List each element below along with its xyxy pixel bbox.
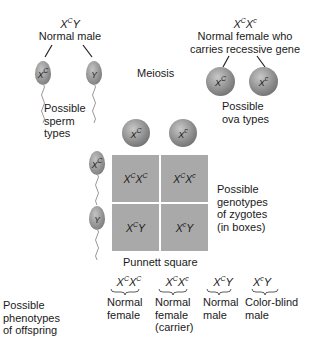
mother-label: Normal female who carries recessive gene [180, 30, 310, 55]
sperm-caption: Possible sperm types [44, 102, 86, 140]
mother-genotype: XCXc [210, 17, 280, 30]
punnett-ovum-xc: XC [122, 119, 150, 147]
sperm-tail-icon [92, 173, 102, 207]
father-label: Normal male [25, 30, 115, 43]
punnett-cell: XCY [112, 204, 159, 251]
phenotype-item: XCY Normalmale [203, 275, 243, 321]
sperm-label: XC [38, 67, 49, 80]
brace-icon [206, 288, 232, 296]
father-branch-lines [40, 44, 100, 60]
punnett-cell: XCXC [112, 155, 159, 202]
phenotype-item: XcY Color-blindmale [245, 275, 311, 321]
phenotype-item: XCXC Normalfemale [107, 275, 151, 321]
punnett-cell: XCXc [161, 155, 208, 202]
phenotype-item: XCXc Normalfemale(carrier) [155, 275, 199, 334]
sperm-tail-icon [89, 83, 99, 123]
allele-rest: Y [73, 18, 80, 30]
ova-caption: Possible ova types [222, 100, 269, 125]
zygote-caption: Possible genotypes of zygotes (in boxes) [217, 183, 268, 233]
brace-icon [158, 288, 188, 296]
sperm-tail-icon [92, 228, 102, 262]
phenotype-caption: Possible phenotypes of offspring [3, 299, 60, 337]
brace-icon [251, 288, 279, 296]
ovum-xlc: Xc [249, 67, 278, 96]
brace-icon [110, 288, 140, 296]
meiosis-label: Meiosis [137, 67, 174, 80]
punnett-ovum-xlc: Xc [169, 119, 197, 147]
ovum-xc: XC [206, 67, 235, 96]
father-genotype: XCY [40, 17, 100, 30]
punnett-caption: Punnett square [123, 256, 198, 269]
sperm-label: Y [91, 67, 97, 80]
punnett-cell: XcY [161, 204, 208, 251]
